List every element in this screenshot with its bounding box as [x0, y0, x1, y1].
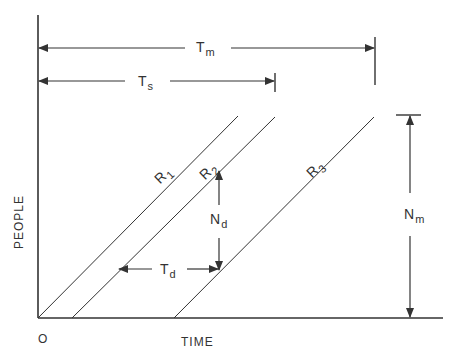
r3-line	[174, 117, 374, 318]
ts-main: T	[138, 73, 147, 89]
td-label: Td	[160, 262, 176, 276]
nd-sub: d	[221, 218, 227, 230]
y-axis-label: PEOPLE	[13, 195, 25, 249]
x-axis-label: TIME	[181, 336, 214, 348]
td-main: T	[160, 261, 169, 277]
r1-line	[38, 116, 238, 318]
ts-sub: s	[148, 80, 154, 92]
tm-sub: m	[206, 46, 215, 58]
nm-main: N	[404, 206, 414, 222]
nm-sub: m	[415, 213, 424, 225]
diagram-graphics	[0, 0, 453, 362]
nd-label: Nd	[210, 212, 227, 226]
origin-label: O	[38, 333, 48, 345]
td-sub: d	[170, 268, 176, 280]
tm-main: T	[196, 39, 205, 55]
tm-label: Tm	[196, 40, 215, 54]
nd-main: N	[210, 211, 220, 227]
r2-line	[72, 117, 275, 318]
ts-label: Ts	[138, 74, 153, 88]
diagram-canvas: Tm Ts R1 R2 R3 Nd Td Nm O TIME PEOPLE	[0, 0, 453, 362]
nm-label: Nm	[404, 207, 424, 221]
